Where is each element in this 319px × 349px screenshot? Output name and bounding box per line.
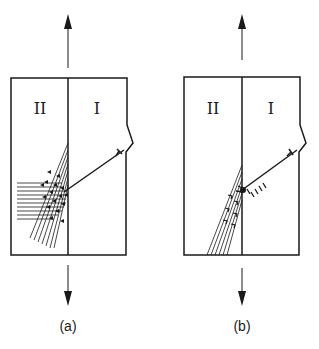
panel-a: II I (a) (11, 14, 133, 334)
grain-label-i: I (268, 99, 274, 118)
tensile-arrow-up-icon (64, 14, 72, 68)
tensile-arrow-down-icon (64, 265, 72, 306)
grain-label-ii: II (34, 99, 47, 118)
panel-caption-b: (b) (233, 318, 250, 334)
crack-tip-dislocation-icon (116, 149, 122, 156)
slip-bands-inclined (30, 143, 68, 248)
specimen-outline (11, 78, 133, 255)
tensile-arrow-down-icon (238, 268, 246, 306)
panel-b: II I (b) (184, 14, 306, 334)
slip-bands-inclined (207, 165, 242, 255)
grain-label-i: I (94, 99, 100, 118)
crack (64, 150, 124, 192)
grain-label-ii: II (207, 99, 220, 118)
specimen-outline (184, 77, 306, 255)
figure-canvas: II I (a) (0, 0, 319, 349)
panel-caption-a: (a) (59, 318, 76, 334)
crack (242, 150, 297, 190)
tensile-arrow-up-icon (238, 14, 246, 60)
